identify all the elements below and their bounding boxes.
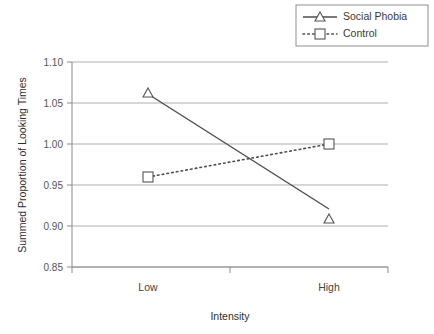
data-point-control-low [143,172,153,182]
y-tick-label-090: 0.90 [44,221,64,232]
y-tickmarks [67,62,72,267]
legend: Social Phobia Control [296,5,428,46]
plot-area [72,62,388,267]
x-tickmarks [72,267,388,273]
x-tick-label-low: Low [138,281,158,293]
line-chart: 1.10 1.05 1.00 0.95 0.90 0.85 Low High I… [0,0,434,334]
y-tick-label-095: 0.95 [44,180,64,191]
x-tick-label-high: High [318,281,340,293]
y-tick-label-100: 1.00 [44,139,64,150]
y-tick-label-110: 1.10 [44,57,64,68]
y-tick-label-085: 0.85 [44,262,64,273]
legend-label-social-phobia: Social Phobia [343,10,407,22]
y-tick-label-105: 1.05 [44,98,64,109]
x-axis-title: Intensity [210,310,250,322]
legend-marker-square-icon [315,29,325,39]
y-axis-title: Summed Proportion of Looking Times [16,77,28,253]
data-point-control-high [324,139,334,149]
legend-label-control: Control [343,27,377,39]
chart-container: 1.10 1.05 1.00 0.95 0.90 0.85 Low High I… [0,0,434,334]
